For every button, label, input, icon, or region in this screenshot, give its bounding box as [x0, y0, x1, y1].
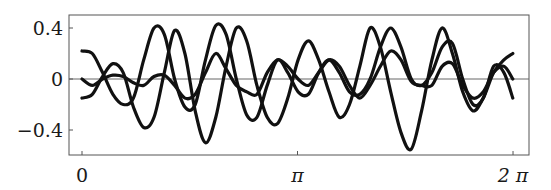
- x-tick-label: π: [290, 164, 304, 186]
- x-tick-label: 2 π: [497, 164, 529, 186]
- line-chart: 0.40−0.4 0π2 π: [0, 0, 551, 190]
- x-tick-label: 0: [76, 164, 88, 186]
- x-axis-ticks: 0π2 π: [76, 151, 529, 186]
- y-tick-label: 0: [51, 68, 63, 90]
- y-tick-label: −0.4: [17, 119, 63, 141]
- y-tick-label: 0.4: [33, 17, 63, 39]
- data-series: [82, 24, 513, 150]
- y-axis-ticks: 0.40−0.4: [17, 17, 73, 141]
